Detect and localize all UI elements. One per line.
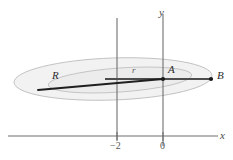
orbit-diagram-figure: R A B r y x −2 0 bbox=[0, 0, 233, 160]
tick-label-zero: 0 bbox=[160, 141, 165, 151]
point-B-dot bbox=[209, 77, 213, 81]
diagram-canvas bbox=[0, 0, 233, 160]
tick-label-minus-2: −2 bbox=[110, 141, 121, 151]
x-axis-label: x bbox=[220, 130, 225, 141]
point-A-dot bbox=[161, 77, 165, 81]
y-axis-label: y bbox=[159, 7, 164, 18]
point-label-A: A bbox=[168, 64, 175, 75]
radius-label-r: r bbox=[132, 66, 136, 75]
point-label-B: B bbox=[217, 70, 224, 81]
point-label-R: R bbox=[52, 70, 59, 81]
